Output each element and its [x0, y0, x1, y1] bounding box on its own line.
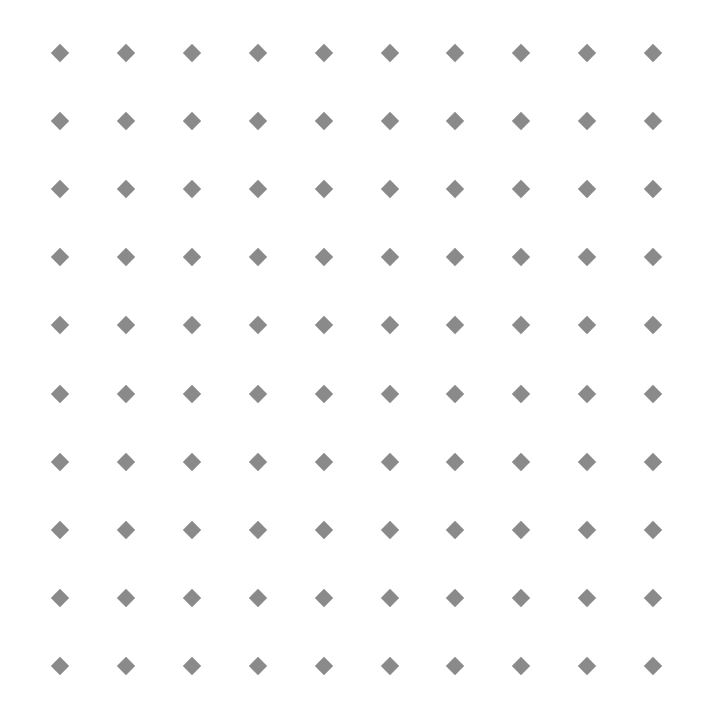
diamond-icon	[51, 520, 69, 538]
diamond-icon	[183, 180, 201, 198]
diamond-icon	[380, 44, 398, 62]
diamond-icon	[446, 452, 464, 470]
diamond-icon	[314, 316, 332, 334]
diamond-icon	[117, 384, 135, 402]
diamond-icon	[183, 384, 201, 402]
diamond-icon	[380, 452, 398, 470]
diamond-icon	[446, 248, 464, 266]
diamond-icon	[51, 180, 69, 198]
diamond-icon	[578, 180, 596, 198]
diamond-icon	[512, 452, 530, 470]
diamond-icon	[314, 452, 332, 470]
diamond-icon	[578, 657, 596, 675]
diamond-icon	[512, 384, 530, 402]
diamond-icon	[248, 180, 266, 198]
diamond-icon	[117, 520, 135, 538]
diamond-icon	[183, 248, 201, 266]
diamond-icon	[578, 452, 596, 470]
diamond-icon	[446, 589, 464, 607]
diamond-icon	[314, 248, 332, 266]
diamond-icon	[578, 520, 596, 538]
diamond-icon	[51, 248, 69, 266]
diamond-icon	[380, 589, 398, 607]
diamond-icon	[446, 316, 464, 334]
diamond-icon	[644, 452, 662, 470]
diamond-icon	[380, 520, 398, 538]
diamond-icon	[248, 452, 266, 470]
diamond-icon	[248, 44, 266, 62]
diamond-icon	[644, 112, 662, 130]
diamond-icon	[183, 657, 201, 675]
diamond-icon	[183, 589, 201, 607]
diamond-icon	[578, 248, 596, 266]
diamond-icon	[578, 589, 596, 607]
diamond-icon	[51, 44, 69, 62]
diamond-icon	[314, 112, 332, 130]
diamond-icon	[117, 589, 135, 607]
diamond-icon	[644, 248, 662, 266]
diamond-icon	[51, 657, 69, 675]
diamond-icon	[512, 112, 530, 130]
diamond-icon	[644, 180, 662, 198]
diamond-icon	[248, 112, 266, 130]
diamond-icon	[183, 44, 201, 62]
diamond-icon	[512, 520, 530, 538]
diamond-icon	[248, 316, 266, 334]
diamond-icon	[380, 384, 398, 402]
diamond-icon	[248, 657, 266, 675]
diamond-icon	[446, 384, 464, 402]
diamond-icon	[512, 248, 530, 266]
diamond-icon	[380, 180, 398, 198]
diamond-icon	[644, 657, 662, 675]
diamond-icon	[183, 452, 201, 470]
diamond-icon	[578, 316, 596, 334]
diamond-icon	[644, 589, 662, 607]
diamond-icon	[314, 589, 332, 607]
diamond-icon	[512, 44, 530, 62]
diamond-icon	[512, 180, 530, 198]
diamond-icon	[183, 316, 201, 334]
diamond-icon	[248, 248, 266, 266]
diamond-icon	[380, 112, 398, 130]
diamond-icon	[117, 452, 135, 470]
diamond-icon	[644, 520, 662, 538]
diamond-icon	[51, 316, 69, 334]
diamond-icon	[446, 180, 464, 198]
diamond-icon	[446, 657, 464, 675]
diamond-icon	[248, 520, 266, 538]
diamond-icon	[446, 44, 464, 62]
diamond-icon	[51, 452, 69, 470]
diamond-icon	[314, 384, 332, 402]
diamond-icon	[183, 520, 201, 538]
diamond-icon	[117, 316, 135, 334]
diamond-icon	[380, 248, 398, 266]
diamond-icon	[51, 384, 69, 402]
diamond-icon	[183, 112, 201, 130]
diamond-icon	[512, 589, 530, 607]
diamond-icon	[248, 384, 266, 402]
diamond-icon	[314, 44, 332, 62]
diamond-icon	[117, 248, 135, 266]
diamond-dot-grid	[0, 0, 704, 708]
diamond-icon	[578, 44, 596, 62]
diamond-icon	[117, 112, 135, 130]
diamond-icon	[446, 520, 464, 538]
diamond-icon	[314, 180, 332, 198]
diamond-icon	[512, 657, 530, 675]
diamond-icon	[578, 112, 596, 130]
diamond-icon	[644, 44, 662, 62]
diamond-icon	[314, 520, 332, 538]
diamond-icon	[644, 384, 662, 402]
diamond-icon	[51, 589, 69, 607]
diamond-icon	[117, 44, 135, 62]
diamond-icon	[578, 384, 596, 402]
diamond-icon	[446, 112, 464, 130]
diamond-icon	[380, 316, 398, 334]
diamond-icon	[644, 316, 662, 334]
diamond-icon	[51, 112, 69, 130]
diamond-icon	[248, 589, 266, 607]
diamond-icon	[512, 316, 530, 334]
diamond-icon	[117, 657, 135, 675]
diamond-icon	[117, 180, 135, 198]
diamond-icon	[380, 657, 398, 675]
